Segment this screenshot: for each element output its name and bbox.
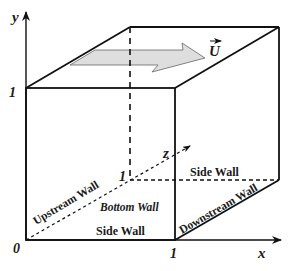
- downstream-wall-label: Downstream Wall: [177, 181, 259, 235]
- z-tick-1: 1: [119, 169, 126, 184]
- y-axis-label: y: [10, 9, 19, 25]
- lid-velocity-arrow: [70, 43, 205, 72]
- origin-label: 0: [13, 241, 20, 256]
- bottom-wall-label: Bottom Wall: [99, 201, 159, 213]
- cavity-diagram: U y x z 0 1 1 1 Upstream Wall Bottom Wal…: [0, 0, 293, 271]
- y-tick-1: 1: [9, 85, 16, 100]
- velocity-label: U: [209, 43, 221, 59]
- x-axis-label: x: [257, 245, 266, 261]
- x-tick-1: 1: [170, 246, 177, 261]
- z-axis-label: z: [162, 145, 169, 161]
- side-wall-back-label: Side Wall: [190, 165, 239, 179]
- side-wall-front-label: Side Wall: [96, 224, 145, 238]
